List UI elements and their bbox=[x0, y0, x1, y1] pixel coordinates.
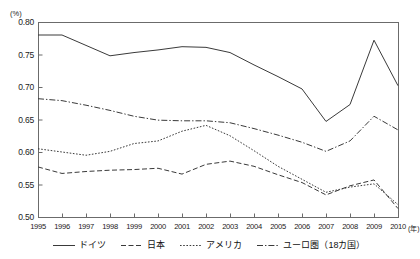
x-tick-label-2: 1997 bbox=[78, 222, 94, 231]
x-axis-unit-label: (年) bbox=[408, 223, 420, 233]
legend-line-icon bbox=[257, 241, 279, 249]
x-tick-label-10: 2005 bbox=[270, 222, 286, 231]
x-tick-label-4: 1999 bbox=[126, 222, 142, 231]
x-tick-label-11: 2006 bbox=[294, 222, 310, 231]
x-tick-label-6: 2001 bbox=[174, 222, 190, 231]
legend-line-icon bbox=[53, 241, 75, 249]
legend-line-icon bbox=[180, 241, 202, 249]
x-tick-label-1: 1996 bbox=[54, 222, 70, 231]
legend-label: 日本 bbox=[147, 238, 165, 251]
x-tick-label-15: 2010 bbox=[390, 222, 406, 231]
x-tick-label-3: 1998 bbox=[102, 222, 118, 231]
x-tick-label-5: 2000 bbox=[150, 222, 166, 231]
legend-item-2[interactable]: アメリカ bbox=[180, 238, 242, 251]
x-tick-label-8: 2003 bbox=[222, 222, 238, 231]
x-tick-label-9: 2004 bbox=[246, 222, 262, 231]
x-tick-label-0: 1995 bbox=[30, 222, 46, 231]
legend-line-icon bbox=[121, 241, 143, 249]
x-tick-label-14: 2009 bbox=[366, 222, 382, 231]
x-tick-label-7: 2002 bbox=[198, 222, 214, 231]
legend-label: アメリカ bbox=[206, 238, 242, 251]
legend-item-1[interactable]: 日本 bbox=[121, 238, 165, 251]
legend-label: ユーロ圏（18カ国） bbox=[283, 238, 365, 251]
legend-item-3[interactable]: ユーロ圏（18カ国） bbox=[257, 238, 365, 251]
chart-legend: ドイツ日本アメリカユーロ圏（18カ国） bbox=[0, 238, 419, 251]
legend-label: ドイツ bbox=[79, 238, 106, 251]
legend-item-0[interactable]: ドイツ bbox=[53, 238, 106, 251]
x-tick-label-13: 2008 bbox=[342, 222, 358, 231]
x-tick-label-12: 2007 bbox=[318, 222, 334, 231]
